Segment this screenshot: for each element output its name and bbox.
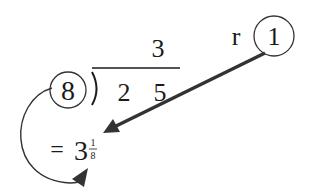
dividend-digit-1: 2 xyxy=(118,78,131,107)
fraction-numerator: 1 xyxy=(91,137,96,148)
remainder-digit: 1 xyxy=(268,22,281,51)
quotient-digit: 3 xyxy=(152,34,165,63)
remainder: r 1 xyxy=(232,16,294,56)
remainder-label: r xyxy=(232,22,241,51)
dividend: 2 5 xyxy=(118,78,167,107)
division-bracket xyxy=(92,72,97,105)
fraction-denominator: 8 xyxy=(91,150,96,161)
mixed-number-result: = 3 1 8 xyxy=(50,135,97,166)
quotient: 3 xyxy=(152,34,165,63)
remainder-arrow xyxy=(112,53,265,128)
division-diagram: 3 8 2 5 r 1 = 3 1 8 xyxy=(0,0,322,193)
divisor-arrowhead-icon xyxy=(72,168,88,187)
equals-sign: = xyxy=(50,136,64,162)
divisor-digit: 8 xyxy=(61,75,75,106)
whole-number: 3 xyxy=(74,135,88,166)
divisor-circled: 8 xyxy=(50,72,86,108)
